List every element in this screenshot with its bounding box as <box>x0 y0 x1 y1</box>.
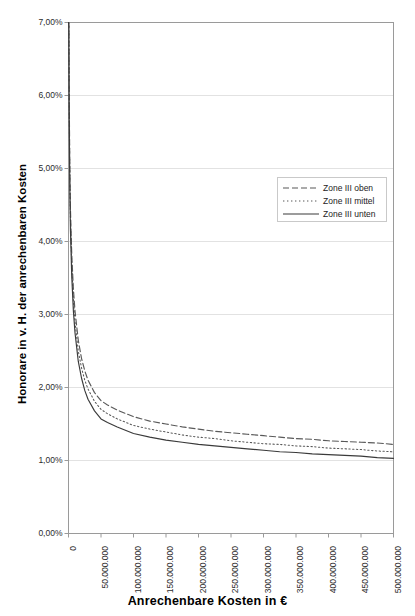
legend-swatch-solid-icon <box>282 209 320 219</box>
legend-label-zone-iii-oben: Zone III oben <box>323 183 373 193</box>
x-axis-title: Anrechenbare Kosten in € <box>0 594 415 608</box>
y-axis-title: Honorare in v. H. der anrechenbaren Kost… <box>16 124 28 444</box>
y-tick-label: 0,00% <box>19 528 63 538</box>
data-series-group <box>69 23 394 459</box>
series-line-zone-iii-oben <box>69 23 394 445</box>
legend-label-zone-iii-mittel: Zone III mittel <box>323 196 375 206</box>
chart-container: 0,00%1,00%2,00%3,00%4,00%5,00%6,00%7,00%… <box>0 0 415 616</box>
y-tick-label: 7,00% <box>19 17 63 27</box>
legend-entry-zone-iii-oben: Zone III oben <box>282 181 382 194</box>
gridlines-group <box>69 23 394 461</box>
legend-label-zone-iii-unten: Zone III unten <box>323 209 375 219</box>
series-line-zone-iii-unten <box>69 23 394 459</box>
plot-border <box>69 23 394 534</box>
y-tick-label: 1,00% <box>19 455 63 465</box>
y-tick-label: 6,00% <box>19 90 63 100</box>
legend-entry-zone-iii-unten: Zone III unten <box>282 207 382 220</box>
legend-swatch-dashed-icon <box>282 183 320 193</box>
legend-entry-zone-iii-mittel: Zone III mittel <box>282 194 382 207</box>
legend-swatch-dotted-icon <box>282 196 320 206</box>
chart-legend: Zone III oben Zone III mittel Zone III u… <box>277 177 387 222</box>
plot-area-border <box>69 23 394 534</box>
